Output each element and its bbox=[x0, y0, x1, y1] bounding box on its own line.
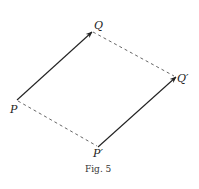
label-P-prime: P′ bbox=[92, 147, 103, 160]
label-Q-prime: Q′ bbox=[177, 72, 189, 85]
label-P: P bbox=[9, 103, 18, 116]
dashed-QQp bbox=[93, 32, 174, 76]
parallelogram-diagram: Q P Q′ P′ Fig. 5 bbox=[0, 0, 199, 189]
figure-caption: Fig. 5 bbox=[85, 164, 112, 174]
vector-PQ bbox=[17, 32, 92, 100]
label-Q: Q bbox=[94, 19, 103, 32]
vector-PpQp bbox=[98, 77, 176, 147]
dashed-PPp bbox=[18, 101, 97, 146]
